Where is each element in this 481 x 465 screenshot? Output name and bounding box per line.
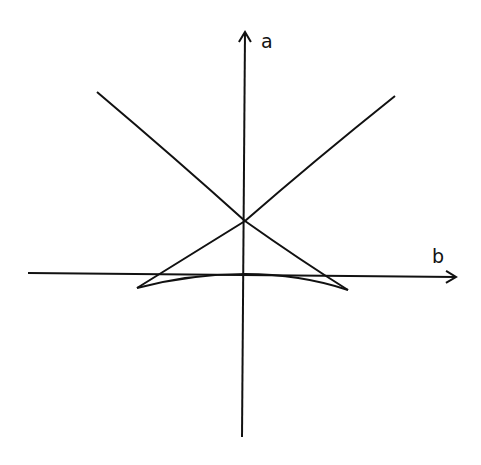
branch-right-upper (137, 96, 395, 288)
diagram-canvas: a b (0, 0, 481, 465)
branch-left-upper (97, 92, 348, 290)
a-axis-label: a (261, 30, 273, 52)
a-axis (242, 32, 245, 437)
b-axis-label: b (432, 245, 444, 267)
